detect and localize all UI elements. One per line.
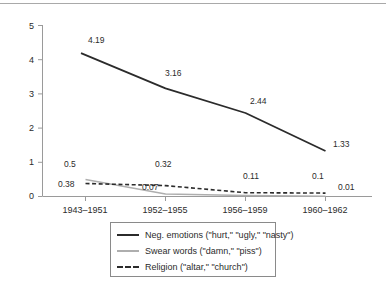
legend-item-religion: Religion ("altar," "church") — [117, 259, 269, 275]
series-line-religion — [86, 184, 326, 194]
legend-label-neg-emotions: Neg. emotions ("hurt," "ugly," "nasty") — [145, 230, 294, 241]
y-tick-label-1: 1 — [18, 157, 34, 167]
data-label-neg-emotions-2: 3.16 — [165, 69, 182, 78]
y-tick-label-3: 3 — [18, 89, 34, 99]
x-tick-label-2: 1952–1955 — [125, 205, 205, 215]
series-line-neg-emotions — [81, 53, 326, 151]
y-tick-label-0: 0 — [18, 191, 34, 201]
legend-solid-dark-line-icon — [117, 230, 139, 240]
data-label-religion-4: 0.1 — [312, 172, 324, 181]
y-tick-label-2: 2 — [18, 123, 34, 133]
x-tick-label-1: 1943–1951 — [45, 205, 125, 215]
legend-dashed-line-icon — [117, 262, 139, 272]
legend-item-swear-words: Swear words ("damn," "piss") — [117, 243, 269, 259]
y-tick-label-4: 4 — [18, 55, 34, 65]
data-label-religion-3: 0.11 — [243, 172, 259, 181]
data-label-swear-words-1: 0.5 — [64, 160, 76, 169]
legend-item-neg-emotions: Neg. emotions ("hurt," "ugly," "nasty") — [117, 227, 269, 243]
data-label-swear-words-2: 0.07 — [142, 183, 159, 192]
data-label-neg-emotions-3: 2.44 — [250, 97, 267, 106]
data-label-religion-2: 0.32 — [155, 160, 172, 169]
y-tick-label-5: 5 — [18, 21, 34, 31]
x-tick-label-3: 1956–1959 — [205, 205, 285, 215]
series-line-swear-words — [86, 179, 326, 196]
data-label-neg-emotions-1: 4.19 — [88, 36, 105, 45]
data-label-neg-emotions-4: 1.33 — [333, 140, 350, 149]
line-chart-figure: 5 4 3 2 1 0 1943–1951 1952–1955 1956–195… — [0, 0, 386, 293]
legend-solid-light-line-icon — [117, 246, 139, 256]
legend-label-religion: Religion ("altar," "church") — [145, 262, 248, 273]
x-tick-label-4: 1960–1962 — [285, 205, 365, 215]
chart-legend: Neg. emotions ("hurt," "ugly," "nasty") … — [110, 222, 276, 277]
legend-label-swear-words: Swear words ("damn," "piss") — [145, 246, 262, 257]
data-label-swear-words-4: 0.01 — [338, 183, 355, 192]
data-label-religion-1: 0.38 — [58, 180, 75, 189]
